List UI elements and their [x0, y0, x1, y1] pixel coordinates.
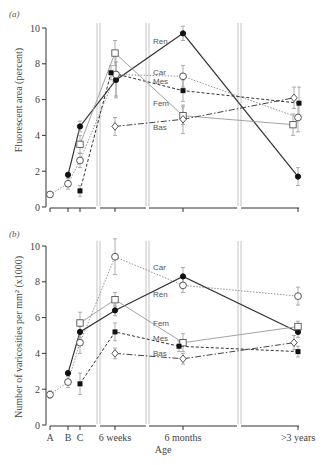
- plot-layer: 0246810RenCarMesFemBas0246810ABC6 weeks6…: [30, 23, 315, 444]
- marker-car-open-circle-icon: [180, 282, 187, 289]
- y-tick-label: 4: [35, 348, 40, 359]
- marker-car-open-circle-icon: [113, 71, 120, 78]
- y-tick-label: 2: [35, 166, 40, 177]
- marker-bas-open-diamond-icon: [112, 123, 118, 131]
- series-label-ren: Ren: [153, 37, 168, 46]
- marker-car-open-circle-icon: [180, 73, 187, 80]
- x-tick-label: 6 weeks: [99, 432, 132, 443]
- marker-ren-filled-circle-icon: [77, 124, 82, 129]
- marker-bas-open-diamond-icon: [180, 355, 186, 363]
- marker-car-open-circle-icon: [77, 157, 84, 164]
- marker-car-open-circle-icon: [47, 391, 54, 398]
- marker-mes-filled-square-icon: [297, 101, 302, 106]
- x-tick-label: B: [65, 432, 72, 443]
- marker-mes-filled-square-icon: [296, 349, 301, 354]
- y-tick-label: 10: [30, 23, 40, 34]
- y-tick-label: 6: [35, 312, 40, 323]
- marker-mes-filled-square-icon: [78, 381, 83, 386]
- marker-bas-open-diamond-icon: [291, 94, 297, 102]
- series-label-mes: Mes: [153, 334, 168, 343]
- marker-car-open-circle-icon: [47, 191, 54, 198]
- marker-bas-open-diamond-icon: [291, 339, 297, 347]
- series-label-fem: Fem: [153, 99, 169, 108]
- panel-a-y-axis-title: Fluorescent area (percent): [13, 48, 25, 152]
- marker-fem-open-square-icon: [290, 121, 296, 127]
- marker-car-open-circle-icon: [112, 253, 119, 260]
- panel-b: 0246810ABC6 weeks6 months>3 yearsCarRenF…: [30, 239, 315, 443]
- marker-fem-open-square-icon: [112, 297, 118, 303]
- marker-car-open-circle-icon: [295, 293, 302, 300]
- panel-b-y-axis-title: Number of varicosities per mm² (x1000): [13, 256, 25, 418]
- y-tick-label: 6: [35, 94, 40, 105]
- marker-ren-filled-circle-icon: [180, 31, 185, 36]
- marker-ren-filled-circle-icon: [180, 274, 185, 279]
- panel-b-label: (b): [9, 229, 20, 239]
- y-tick-label: 8: [35, 58, 40, 69]
- y-tick-label: 0: [35, 202, 40, 213]
- y-tick-label: 8: [35, 276, 40, 287]
- marker-fem-open-square-icon: [112, 50, 118, 56]
- y-tick-label: 10: [30, 241, 40, 252]
- series-label-bas: Bas: [153, 349, 167, 358]
- x-tick-label: A: [46, 432, 54, 443]
- marker-car-open-circle-icon: [295, 114, 302, 121]
- marker-ren-filled-circle-icon: [295, 174, 300, 179]
- marker-fem-open-square-icon: [77, 320, 83, 326]
- series-label-car: Car: [153, 263, 166, 272]
- marker-fem-open-square-icon: [77, 141, 83, 147]
- marker-mes-filled-square-icon: [78, 188, 83, 193]
- marker-ren-filled-circle-icon: [112, 308, 117, 313]
- panel-a-label: (a): [9, 9, 20, 19]
- figure: (a) (b) Fluorescent area (percent) Numbe…: [0, 0, 324, 465]
- marker-bas-open-diamond-icon: [112, 350, 118, 358]
- marker-mes-filled-square-icon: [181, 88, 186, 93]
- marker-mes-filled-square-icon: [177, 344, 182, 349]
- series-line-mes: [80, 73, 299, 191]
- marker-fem-open-square-icon: [295, 323, 301, 329]
- x-tick-label: C: [77, 432, 84, 443]
- chart-canvas: (a) (b) Fluorescent area (percent) Numbe…: [0, 0, 324, 465]
- marker-ren-filled-circle-icon: [65, 172, 70, 177]
- y-tick-label: 4: [35, 130, 40, 141]
- marker-car-open-circle-icon: [65, 379, 72, 386]
- x-tick-label: >3 years: [281, 432, 315, 443]
- series-label-fem: Fem: [153, 319, 169, 328]
- y-tick-label: 0: [35, 420, 40, 431]
- series-line-car: [50, 75, 298, 195]
- series-label-car: Car: [153, 68, 166, 77]
- marker-car-open-circle-icon: [65, 180, 72, 187]
- marker-mes-filled-square-icon: [109, 70, 114, 75]
- series-label-ren: Ren: [153, 290, 168, 299]
- marker-ren-filled-circle-icon: [77, 329, 82, 334]
- marker-ren-filled-circle-icon: [65, 370, 70, 375]
- series-label-mes: Mes: [153, 77, 168, 86]
- y-tick-label: 2: [35, 384, 40, 395]
- marker-car-open-circle-icon: [77, 339, 84, 346]
- series-label-bas: Bas: [153, 123, 167, 132]
- panel-a: 0246810RenCarMesFemBas: [30, 23, 302, 213]
- x-axis-title: Age: [155, 444, 172, 455]
- marker-mes-filled-square-icon: [113, 329, 118, 334]
- x-tick-label: 6 months: [165, 432, 202, 443]
